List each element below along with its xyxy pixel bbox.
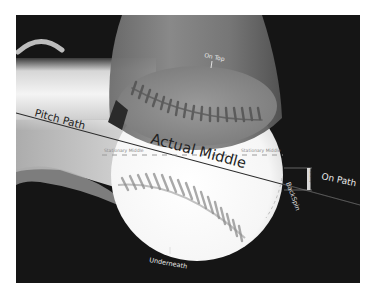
baseball-on-top [117,66,277,146]
bracket-label: Stationary [309,169,312,183]
bat-ball-contact-diagram: Pitch Path Actual Middle Stationary Midd… [0,0,377,298]
stationary-middle-label-left: Stationary Middle [104,148,144,153]
stationary-middle-label-right: Stationary Middle [241,148,281,153]
diagram-canvas: Pitch Path Actual Middle Stationary Midd… [0,0,377,298]
